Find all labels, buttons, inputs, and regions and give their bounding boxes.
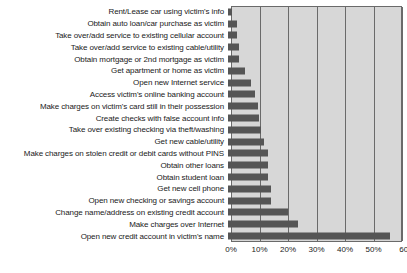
bar: [228, 126, 261, 133]
bar-category-label: Obtain mortgage or 2nd mortgage as victi…: [0, 55, 228, 64]
bar: [228, 67, 245, 74]
bar: [228, 44, 239, 51]
bar-row: Obtain auto loan/car purchase as victim: [0, 18, 403, 30]
bar-category-label: Take over existing checking via theft/wa…: [0, 125, 228, 134]
bar-track: [228, 6, 403, 18]
bar-category-label: Obtain auto loan/car purchase as victim: [0, 19, 228, 28]
bar-category-label: Take over/add service to existing cable/…: [0, 43, 228, 52]
bar-row: Obtain mortgage or 2nd mortgage as victi…: [0, 53, 403, 65]
bar: [228, 185, 271, 192]
bar-category-label: Open new credit account in victim's name: [0, 232, 228, 241]
bar-category-label: Create checks with false account info: [0, 114, 228, 123]
x-axis: 0%10%20%30%40%50%60: [0, 244, 407, 260]
bar-chart: Rent/Lease car using victim's infoObtain…: [0, 0, 407, 273]
x-axis-tick-label: 50%: [365, 244, 381, 255]
bar-track: [228, 41, 403, 53]
x-axis-tick-label: 10%: [251, 244, 267, 255]
bar-track: [228, 195, 403, 207]
bar-category-label: Change name/address on existing credit a…: [0, 208, 228, 217]
bar-category-label: Get new cell phone: [0, 184, 228, 193]
bar-category-label: Make charges over Internet: [0, 220, 228, 229]
bar: [228, 209, 288, 216]
bar: [228, 150, 268, 157]
bar-track: [228, 230, 403, 242]
bar-track: [228, 159, 403, 171]
bar-category-label: Obtain other loans: [0, 161, 228, 170]
bar-row: Open new Internet service: [0, 77, 403, 89]
bar: [228, 221, 298, 228]
bar: [228, 79, 251, 86]
bar-row: Make charges over Internet: [0, 218, 403, 230]
bar-category-label: Open new checking or savings account: [0, 196, 228, 205]
x-axis-tick-label: 30%: [308, 244, 324, 255]
bar-track: [228, 18, 403, 30]
bar-row: Obtain student loan: [0, 171, 403, 183]
bar-track: [228, 53, 403, 65]
bar-track: [228, 207, 403, 219]
bar: [228, 115, 259, 122]
bar-track: [228, 77, 403, 89]
bar: [228, 197, 271, 204]
bar-track: [228, 218, 403, 230]
x-axis-tick-label: 0%: [225, 244, 237, 255]
bar: [228, 174, 268, 181]
bar-category-label: Obtain student loan: [0, 173, 228, 182]
x-axis-tick-label: 60: [399, 244, 407, 255]
bar-category-label: Take over/add service to existing cellul…: [0, 31, 228, 40]
bar-track: [228, 148, 403, 160]
bar-row: Rent/Lease car using victim's info: [0, 6, 403, 18]
bar-row: Take over existing checking via theft/wa…: [0, 124, 403, 136]
bar-row: Take over/add service to existing cellul…: [0, 30, 403, 42]
bar-category-label: Make charges on victim's card still in t…: [0, 102, 228, 111]
bar-track: [228, 183, 403, 195]
bar-track: [228, 65, 403, 77]
bar-row: Open new credit account in victim's name: [0, 230, 403, 242]
bar-row: Get new cable/utility: [0, 136, 403, 148]
bar-track: [228, 124, 403, 136]
bar-category-label: Make charges on stolen credit or debit c…: [0, 149, 228, 158]
bar-row: Obtain other loans: [0, 159, 403, 171]
bar: [228, 103, 258, 110]
bar-row: Take over/add service to existing cable/…: [0, 41, 403, 53]
bar: [228, 138, 264, 145]
bar-category-label: Rent/Lease car using victim's info: [0, 7, 228, 16]
bar-track: [228, 89, 403, 101]
bar: [228, 233, 390, 240]
bar: [228, 8, 232, 15]
bar-track: [228, 136, 403, 148]
bar-category-label: Get new cable/utility: [0, 137, 228, 146]
x-axis-tick-label: 40%: [337, 244, 353, 255]
x-axis-tick-label: 20%: [280, 244, 296, 255]
bar: [228, 20, 237, 27]
bar-track: [228, 112, 403, 124]
bar-row: Access victim's online banking account: [0, 89, 403, 101]
bar: [228, 56, 239, 63]
bar-row: Get apartment or home as victim: [0, 65, 403, 77]
bar: [228, 162, 268, 169]
bar-rows: Rent/Lease car using victim's infoObtain…: [0, 6, 403, 242]
bar-row: Make charges on victim's card still in t…: [0, 100, 403, 112]
bar-row: Change name/address on existing credit a…: [0, 207, 403, 219]
bar-row: Make charges on stolen credit or debit c…: [0, 148, 403, 160]
bar-row: Open new checking or savings account: [0, 195, 403, 207]
plot-area: Rent/Lease car using victim's infoObtain…: [0, 6, 403, 242]
bar-category-label: Open new Internet service: [0, 78, 228, 87]
bar: [228, 91, 255, 98]
bar-row: Create checks with false account info: [0, 112, 403, 124]
bar-track: [228, 30, 403, 42]
bar-track: [228, 100, 403, 112]
bar: [228, 32, 237, 39]
bar-category-label: Access victim's online banking account: [0, 90, 228, 99]
bar-category-label: Get apartment or home as victim: [0, 66, 228, 75]
bar-track: [228, 171, 403, 183]
bar-row: Get new cell phone: [0, 183, 403, 195]
